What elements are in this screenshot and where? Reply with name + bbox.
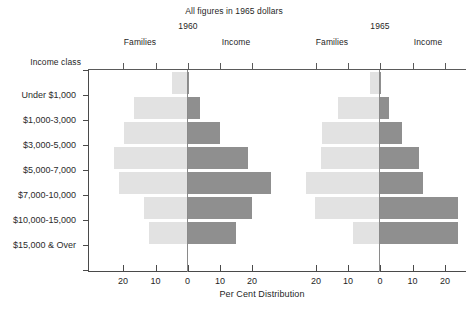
x-tick-label: 10 <box>343 276 353 286</box>
x-tick-top <box>316 63 317 69</box>
x-tick-label: 0 <box>185 276 190 286</box>
x-tick-top <box>123 63 124 69</box>
x-tick-top <box>348 63 349 69</box>
bar-income <box>188 222 236 244</box>
bar-families <box>353 222 379 244</box>
chart-title: All figures in 1965 dollars <box>185 6 283 16</box>
chart-figure: All figures in 1965 dollars 1960 1965 Fa… <box>0 0 468 321</box>
x-tick-label: 10 <box>150 276 160 286</box>
series-header-income-1965: Income <box>414 37 442 47</box>
bar-income <box>188 197 252 219</box>
bar-families <box>370 72 379 94</box>
bar-income <box>188 97 200 119</box>
x-tick-top <box>156 63 157 69</box>
series-header-income-1960: Income <box>222 37 250 47</box>
bar-income <box>380 147 419 169</box>
bar-families <box>124 122 187 144</box>
series-header-families-1965: Families <box>316 37 348 47</box>
panel-year-1960: 1960 <box>178 21 197 31</box>
x-tick-label: 10 <box>215 276 225 286</box>
bars-layer <box>0 70 468 272</box>
x-tick-top <box>380 63 381 69</box>
bar-families <box>172 72 187 94</box>
bar-income <box>380 97 389 119</box>
x-tick-label: 20 <box>247 276 257 286</box>
x-tick-label: 20 <box>118 276 128 286</box>
bar-income <box>188 72 189 94</box>
x-tick-label: 10 <box>407 276 417 286</box>
bar-income <box>380 122 402 144</box>
bar-families <box>134 97 187 119</box>
bar-income <box>380 222 458 244</box>
panel-year-1965: 1965 <box>370 21 389 31</box>
bar-families <box>321 147 379 169</box>
x-axis-title: Per Cent Distribution <box>219 289 304 299</box>
x-tick-top <box>188 63 189 69</box>
bar-families <box>149 222 187 244</box>
bar-income <box>380 172 423 194</box>
x-tick-label: 20 <box>440 276 450 286</box>
bar-families <box>144 197 187 219</box>
bar-income <box>188 172 271 194</box>
bar-families <box>119 172 187 194</box>
bar-families <box>306 172 379 194</box>
bar-families <box>315 197 379 219</box>
x-tick-top <box>252 63 253 69</box>
bar-income <box>380 72 381 94</box>
bar-income <box>188 147 248 169</box>
bar-income <box>188 122 220 144</box>
bar-income <box>380 197 458 219</box>
x-tick-top <box>445 63 446 69</box>
x-tick-label: 0 <box>377 276 382 286</box>
series-header-families-1960: Families <box>124 37 156 47</box>
bar-families <box>338 97 379 119</box>
x-tick-top <box>220 63 221 69</box>
x-tick-label: 20 <box>311 276 321 286</box>
y-axis-title: Income class <box>30 57 81 67</box>
x-tick-top <box>413 63 414 69</box>
bar-families <box>322 122 379 144</box>
bar-families <box>114 147 187 169</box>
